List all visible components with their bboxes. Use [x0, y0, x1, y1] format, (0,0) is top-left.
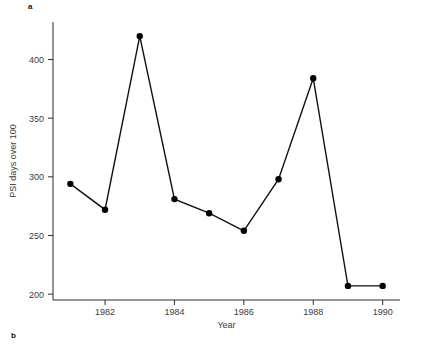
- x-tick-label: 1990: [373, 307, 393, 317]
- x-axis-title: Year: [217, 320, 235, 330]
- line-chart-figure: 200250300350400 19821984198619881990 Yea…: [0, 0, 425, 350]
- y-tick-label: 350: [29, 114, 44, 124]
- y-tick-label: 250: [29, 231, 44, 241]
- x-tick-label: 1984: [164, 307, 184, 317]
- x-axis: 19821984198619881990: [95, 300, 393, 317]
- data-point: [241, 228, 247, 234]
- y-tick-label: 200: [29, 290, 44, 300]
- data-point: [171, 196, 177, 202]
- y-axis: 200250300350400: [29, 55, 53, 300]
- y-axis-title: PSI days over 100: [8, 124, 18, 198]
- x-tick-label: 1986: [234, 307, 254, 317]
- data-series-line: [70, 36, 382, 286]
- data-point: [102, 206, 108, 212]
- data-point: [345, 283, 351, 289]
- x-tick-label: 1988: [303, 307, 323, 317]
- chart-canvas: 200250300350400 19821984198619881990 Yea…: [0, 0, 425, 350]
- x-tick-label: 1982: [95, 307, 115, 317]
- data-point: [137, 33, 143, 39]
- data-point: [206, 210, 212, 216]
- y-tick-label: 400: [29, 55, 44, 65]
- data-point: [310, 75, 316, 81]
- data-point: [275, 176, 281, 182]
- data-point: [67, 181, 73, 187]
- y-tick-label: 300: [29, 172, 44, 182]
- data-point: [379, 283, 385, 289]
